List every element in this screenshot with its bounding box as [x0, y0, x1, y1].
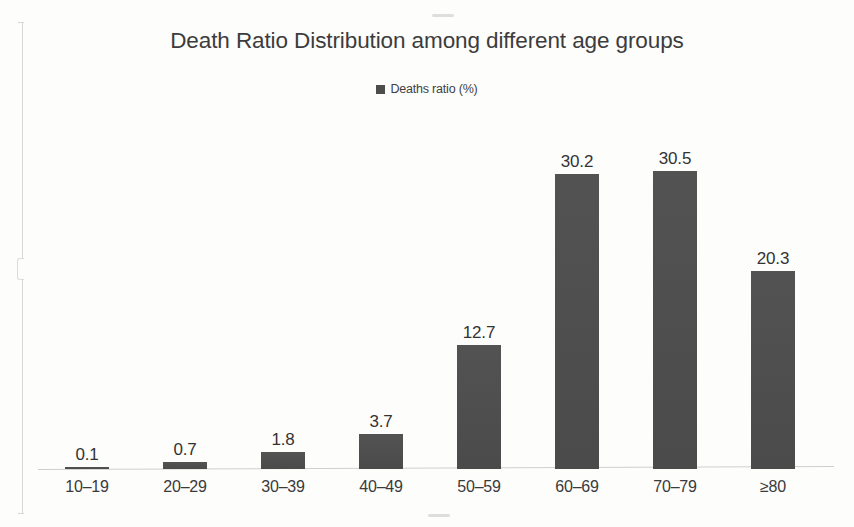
bar-rect	[65, 467, 109, 469]
x-axis-labels: 10–19 20–29 30–39 40–49 50–59 60–69 70–7…	[38, 478, 834, 508]
bar-rect	[653, 171, 697, 469]
x-tick-label: 70–79	[626, 478, 724, 496]
bar-rect	[555, 174, 599, 469]
bar-group: 0.7	[136, 441, 234, 469]
x-tick-label: 20–29	[136, 478, 234, 496]
legend-label: Deaths ratio (%)	[390, 82, 477, 96]
plot-area: 0.1 0.7 1.8 3.7 12.7 30.2 30.5 2	[38, 110, 834, 470]
x-tick-label: ≥80	[724, 478, 822, 496]
bar-group: 30.2	[528, 153, 626, 469]
bar-chart: Death Ratio Distribution among different…	[0, 0, 854, 527]
bar-group: 0.1	[38, 446, 136, 469]
x-tick-label: 50–59	[430, 478, 528, 496]
bar-value-label: 0.1	[75, 446, 98, 463]
bar-group: 1.8	[234, 431, 332, 469]
x-tick-label: 40–49	[332, 478, 430, 496]
bar-value-label: 20.3	[757, 250, 789, 267]
x-tick-label: 60–69	[528, 478, 626, 496]
bar-value-label: 3.7	[369, 413, 392, 430]
bar-group: 20.3	[724, 250, 822, 469]
bar-rect	[751, 271, 795, 469]
bar-group: 3.7	[332, 413, 430, 469]
x-tick-label: 10–19	[38, 478, 136, 496]
legend-swatch-icon	[376, 85, 385, 94]
bar-value-label: 30.5	[659, 150, 691, 167]
bar-value-label: 12.7	[463, 324, 495, 341]
x-tick-label: 30–39	[234, 478, 332, 496]
bar-rect	[261, 452, 305, 469]
bar-rect	[359, 434, 403, 469]
chart-title: Death Ratio Distribution among different…	[0, 28, 854, 54]
bar-rect	[457, 345, 501, 469]
bar-group: 30.5	[626, 150, 724, 469]
bar-rect	[163, 462, 207, 469]
bar-group: 12.7	[430, 324, 528, 469]
bar-value-label: 30.2	[561, 153, 593, 170]
bar-value-label: 0.7	[173, 441, 196, 458]
bar-value-label: 1.8	[271, 431, 294, 448]
chart-legend: Deaths ratio (%)	[0, 82, 854, 96]
